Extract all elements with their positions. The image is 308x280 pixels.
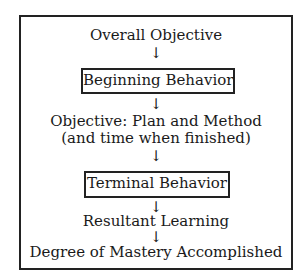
arrow-down-icon: ↓ <box>21 97 291 112</box>
node-terminal-behavior: Terminal Behavior <box>84 171 230 198</box>
node-objective-plan-subtitle: (and time when finished) <box>21 130 291 147</box>
node-degree-of-mastery: Degree of Mastery Accomplished <box>21 244 291 261</box>
node-terminal-behavior-label: Terminal Behavior <box>87 174 227 192</box>
node-beginning-behavior: Beginning Behavior <box>81 68 235 94</box>
node-beginning-behavior-label: Beginning Behavior <box>83 71 233 89</box>
arrow-down-icon: ↓ <box>21 46 291 61</box>
arrow-down-icon: ↓ <box>21 149 291 164</box>
node-objective-plan: Objective: Plan and Method <box>21 113 291 130</box>
diagram-frame: Overall Objective ↓ Beginning Behavior ↓… <box>19 15 293 270</box>
node-overall-objective: Overall Objective <box>21 27 291 44</box>
